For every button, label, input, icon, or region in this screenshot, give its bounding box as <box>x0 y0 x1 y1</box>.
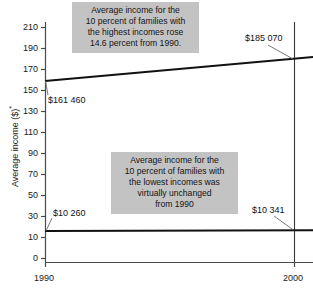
y-tick-label-70: 70 <box>0 170 38 179</box>
y-tick-label-210: 210 <box>0 23 38 32</box>
data-label-low-2000: $10 341 <box>252 206 285 215</box>
annotation-callout-bottom-decile: Average income for the 10 percent of fam… <box>111 152 238 214</box>
series-line-top-decile <box>45 57 313 81</box>
callout-bottom-line-5: from 1990 <box>115 199 234 210</box>
callout-top-line-4: 14.6 percent from 1990. <box>76 38 195 49</box>
series-line-bottom-decile <box>45 230 313 231</box>
y-tick-label-190: 190 <box>0 44 38 53</box>
y-tick-label-170: 170 <box>0 65 38 74</box>
data-label-low-1990: $10 260 <box>53 209 86 218</box>
y-tick-label-90: 90 <box>0 149 38 158</box>
annotation-callout-top-decile: Average income for the 10 percent of fam… <box>72 2 199 53</box>
y-tick-label-110: 110 <box>0 128 38 137</box>
y-tick-label-0: 0 <box>0 254 38 263</box>
y-tick-label-10: 10 <box>0 233 38 242</box>
y-tick-label-50: 50 <box>0 191 38 200</box>
data-label-high-2000: $185 070 <box>245 34 283 43</box>
y-tick-label-130: 130 <box>0 107 38 116</box>
data-label-high-1990: $161 460 <box>48 96 86 105</box>
y-axis-ticks <box>41 28 45 259</box>
callout-bottom-line-4: virtually unchanged <box>115 188 234 199</box>
callout-bottom-line-2: 10 percent of families with <box>115 166 234 177</box>
x-tick-label-2000: 2000 <box>283 274 303 283</box>
income-distribution-line-chart: Average income ($)* 210 190 170 150 130 … <box>0 0 313 291</box>
callout-top-line-3: the highest incomes rose <box>76 27 195 38</box>
leader-line-high-2000 <box>268 45 293 59</box>
y-tick-label-150: 150 <box>0 86 38 95</box>
callout-bottom-line-3: the lowest incomes was <box>115 177 234 188</box>
callout-top-line-1: Average income for the <box>76 5 195 16</box>
callout-top-line-2: 10 percent of families with <box>76 16 195 27</box>
x-tick-label-1990: 1990 <box>34 274 54 283</box>
leader-line-low-2000 <box>274 216 294 230</box>
y-tick-label-30: 30 <box>0 212 38 221</box>
leader-line-low-1990 <box>46 218 52 231</box>
callout-bottom-line-1: Average income for the <box>115 155 234 166</box>
